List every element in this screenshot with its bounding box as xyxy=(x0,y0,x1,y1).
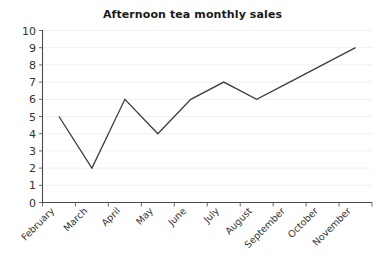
x-axis-tick-label: February xyxy=(19,205,57,243)
y-axis-ticks-group: 012345678910 xyxy=(22,25,43,210)
x-axis-tick-label: April xyxy=(99,205,122,228)
data-series-line xyxy=(59,48,356,168)
y-axis-tick-label: 3 xyxy=(29,145,36,158)
line-chart: Afternoon tea monthly sales 012345678910… xyxy=(0,0,385,271)
x-axis-tick-label: July xyxy=(201,205,222,226)
y-axis-tick-label: 7 xyxy=(29,76,36,89)
chart-plot-area: 012345678910 FebruaryMarchAprilMayJuneJu… xyxy=(0,0,385,271)
y-axis-tick-label: 9 xyxy=(29,42,36,55)
y-axis-tick-label: 10 xyxy=(22,25,36,38)
y-axis-tick-label: 0 xyxy=(29,197,36,210)
gridlines-group xyxy=(44,31,373,186)
x-axis-labels-group: FebruaryMarchAprilMayJuneJulyAugustSepte… xyxy=(19,205,353,250)
y-axis-tick-label: 1 xyxy=(29,179,36,192)
x-axis-tick-label: March xyxy=(61,205,89,233)
x-axis-ticks-group xyxy=(43,203,373,207)
x-axis-tick-label: June xyxy=(165,205,188,228)
y-axis-tick-label: 8 xyxy=(29,59,36,72)
y-axis-tick-label: 4 xyxy=(29,128,36,141)
y-axis-tick-label: 2 xyxy=(29,162,36,175)
x-axis-tick-label: August xyxy=(223,205,254,236)
x-axis-tick-label: May xyxy=(134,205,156,227)
y-axis-tick-label: 5 xyxy=(29,111,36,124)
y-axis-tick-label: 6 xyxy=(29,93,36,106)
